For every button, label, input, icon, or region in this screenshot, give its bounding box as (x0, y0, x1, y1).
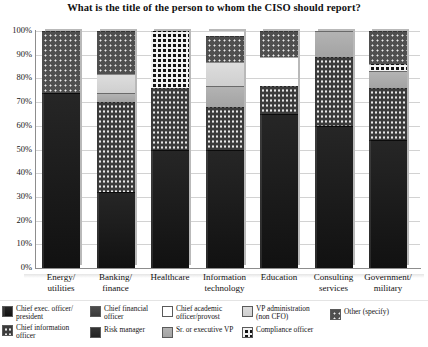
bar-segment-compliance[interactable] (369, 64, 407, 71)
legend-swatch-academic (162, 306, 173, 317)
bar-segment-other[interactable] (42, 31, 80, 93)
legend-item-ceo[interactable]: Chief exec. officer/ president (2, 305, 74, 322)
legend-label: Chief information officer (16, 324, 69, 341)
legend-label: Risk manager (104, 326, 145, 334)
bar-segment-cio[interactable] (369, 88, 407, 140)
y-axis-tick-label: 90% (1, 49, 32, 59)
y-axis-tick-label: 70% (1, 96, 32, 106)
bar-segment-cio[interactable] (260, 86, 298, 114)
y-axis-tick-label: 60% (1, 120, 32, 130)
bar-segment-vpadmin[interactable] (206, 62, 244, 86)
bar-segment-srvp[interactable] (97, 93, 135, 102)
bar-column[interactable] (42, 31, 80, 268)
legend-label: Sr. or executive VP (176, 326, 233, 334)
chart-title: What is the title of the person to whom … (0, 2, 428, 14)
legend-swatch-compliance (242, 327, 253, 338)
legend-item-other[interactable]: Other (specify) (330, 308, 414, 320)
y-axis-tick-label: 80% (1, 72, 32, 82)
y-axis-tick: 50% (36, 150, 37, 151)
bar-column[interactable] (369, 31, 407, 268)
bar-segment-cio[interactable] (315, 57, 353, 126)
bar-segment-srvp[interactable] (206, 86, 244, 107)
y-axis-tick: 0% (36, 268, 37, 269)
legend-label: Chief academic officer/provost (176, 305, 222, 322)
bar-segment-ceo[interactable] (315, 126, 353, 268)
y-axis-tick-label: 30% (1, 191, 32, 201)
legend-item-academic[interactable]: Chief academic officer/provost (162, 305, 232, 322)
bar-segment-other[interactable] (260, 31, 298, 57)
legend-swatch-srvp (162, 327, 173, 338)
legend-swatch-other (330, 309, 341, 320)
x-axis-category-label: Informationtechnology (196, 272, 254, 293)
x-axis-category-label: Education (250, 272, 308, 283)
bar-stack (97, 31, 135, 268)
y-axis-tick-label: 10% (1, 238, 32, 248)
scan-band (0, 300, 428, 301)
bar-stack (369, 31, 407, 268)
x-axis-category-label: Consultingservices (305, 272, 363, 293)
legend-label: Chief financial officer (104, 305, 148, 322)
legend-label: Chief exec. officer/ president (16, 305, 73, 322)
x-axis-category-label: Energy/utilities (32, 272, 90, 293)
chart-legend: Chief exec. officer/ presidentChief info… (2, 305, 426, 347)
legend-item-cfo[interactable]: Chief financial officer (90, 305, 152, 322)
legend-swatch-risk (90, 327, 101, 338)
y-axis-tick-label: 0% (1, 262, 32, 272)
y-axis-tick-label: 50% (1, 144, 32, 154)
y-axis-tick: 70% (36, 102, 37, 103)
bar-segment-cio[interactable] (206, 107, 244, 150)
y-axis-tick: 30% (36, 197, 37, 198)
legend-item-srvp[interactable]: Sr. or executive VP (162, 326, 238, 338)
legend-swatch-vpadmin (242, 306, 253, 317)
legend-swatch-ceo (2, 306, 13, 317)
bar-stack (206, 31, 244, 268)
bar-column[interactable] (97, 31, 135, 268)
bar-segment-ceo[interactable] (369, 140, 407, 268)
bar-stack (151, 31, 189, 268)
x-axis-category-label: Banking/finance (87, 272, 145, 293)
legend-label: Other (specify) (344, 308, 389, 316)
bar-segment-srvp[interactable] (369, 71, 407, 88)
y-axis-tick: 100% (36, 31, 37, 32)
legend-label: VP administration (non CFO) (256, 305, 310, 322)
legend-item-vpadmin[interactable]: VP administration (non CFO) (242, 305, 316, 322)
bar-stack (42, 31, 80, 268)
y-axis-tick: 20% (36, 221, 37, 222)
bar-segment-ceo[interactable] (97, 192, 135, 268)
plot-area: 0%10%20%30%40%50%60%70%80%90%100% (36, 31, 420, 268)
y-axis-tick: 60% (36, 126, 37, 127)
bar-stack (315, 31, 353, 268)
bar-segment-cio[interactable] (97, 102, 135, 192)
bar-column[interactable] (151, 31, 189, 268)
bar-segment-compliance[interactable] (151, 31, 189, 88)
legend-label: Compliance officer (256, 326, 313, 334)
bar-segment-vpadmin[interactable] (97, 74, 135, 93)
bar-segment-srvp[interactable] (315, 31, 353, 57)
bar-segment-academic[interactable] (260, 57, 298, 85)
bar-segment-cio[interactable] (151, 88, 189, 150)
legend-item-cio[interactable]: Chief information officer (2, 324, 74, 341)
bar-segment-other[interactable] (206, 36, 244, 62)
y-axis-tick: 80% (36, 78, 37, 79)
x-axis-category-label: Healthcare (141, 272, 199, 283)
y-axis-tick-label: 40% (1, 167, 32, 177)
legend-swatch-cio (2, 325, 13, 336)
bar-column[interactable] (315, 31, 353, 268)
x-axis-line (35, 268, 421, 269)
legend-item-compliance[interactable]: Compliance officer (242, 326, 322, 338)
y-axis-tick: 10% (36, 244, 37, 245)
y-axis-tick: 40% (36, 173, 37, 174)
bar-segment-ceo[interactable] (260, 114, 298, 268)
bar-segment-ceo[interactable] (206, 150, 244, 269)
bar-column[interactable] (206, 31, 244, 268)
bar-segment-ceo[interactable] (42, 93, 80, 268)
y-axis-tick: 90% (36, 55, 37, 56)
bar-segment-ceo[interactable] (151, 150, 189, 269)
bar-segment-other[interactable] (369, 31, 407, 64)
y-axis-tick-label: 20% (1, 215, 32, 225)
legend-item-risk[interactable]: Risk manager (90, 326, 152, 338)
bar-column[interactable] (260, 31, 298, 268)
x-axis-category-label: Government/military (359, 272, 417, 293)
bar-stack (260, 31, 298, 268)
bar-segment-other[interactable] (97, 31, 135, 74)
